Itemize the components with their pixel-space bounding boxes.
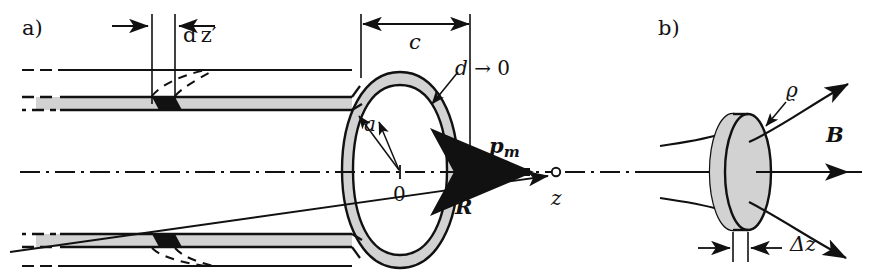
d-symbol: d: [455, 56, 468, 80]
figure-svg: [0, 0, 894, 278]
p-subscript: m: [504, 143, 520, 161]
R-label: R: [455, 196, 472, 217]
lower-tube-wall: [22, 234, 352, 247]
delta-z-label: Δz: [790, 234, 816, 255]
origin-label: 0: [393, 184, 406, 204]
dz-projection-upper: [152, 70, 214, 96]
dz-projection-lower: [152, 248, 214, 266]
panel-a-label: a): [22, 18, 43, 39]
B-label: B: [826, 124, 844, 145]
field-point-marker: [552, 168, 560, 176]
panel-b-graphics: [654, 84, 848, 262]
c-label: c: [409, 32, 421, 53]
a-label: a: [364, 114, 376, 134]
figure-canvas: a) d z′ c d → 0 a 0 pm R z b) ϱ B Δz: [0, 0, 894, 278]
p-symbol: p: [489, 133, 504, 158]
dz-prime-label: d z′: [183, 25, 216, 46]
d-limit-value: → 0: [474, 56, 510, 80]
delta-z-dimension: [698, 232, 782, 262]
magnetic-moment-label: pm: [489, 135, 520, 160]
z-label: z: [551, 188, 562, 208]
rho-label: ϱ: [786, 80, 798, 100]
d-to-zero-label: d → 0: [455, 58, 510, 78]
upper-tube-wall: [22, 97, 352, 110]
panel-b-label: b): [658, 18, 680, 39]
